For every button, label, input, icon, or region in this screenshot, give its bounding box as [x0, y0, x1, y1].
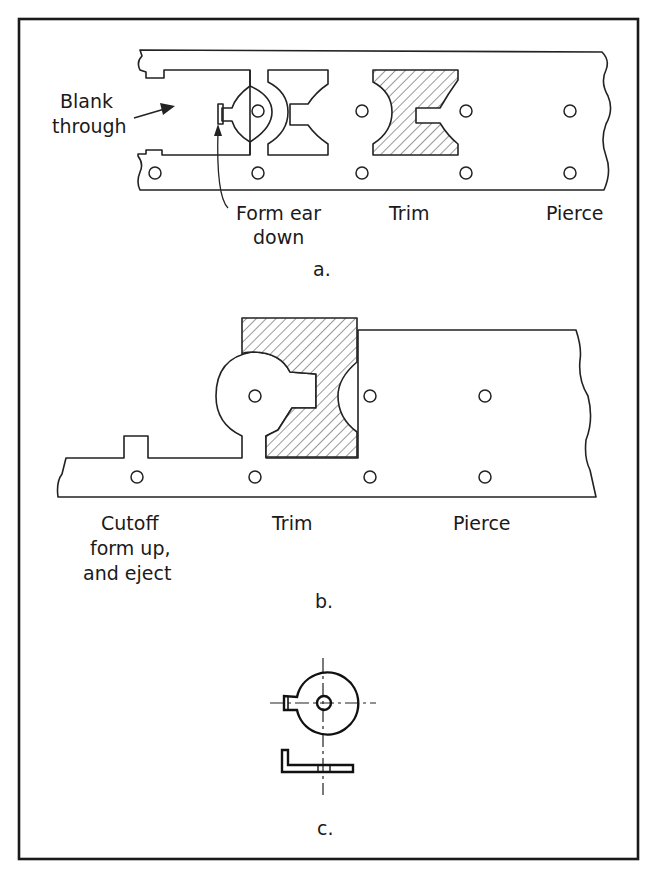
station-form-ear-cutout	[222, 70, 250, 155]
pilot-hole	[364, 390, 376, 402]
panel-b-strip-layout	[58, 318, 597, 497]
label-form-ear-2: down	[253, 226, 304, 248]
pilot-hole	[356, 105, 368, 117]
arrowhead-icon	[160, 103, 175, 115]
label-trim-a: Trim	[388, 202, 429, 224]
caption-c: c.	[317, 817, 334, 839]
figure-canvas: Blank through Form ear down Trim Pierce …	[0, 0, 658, 874]
pilot-hole	[356, 167, 368, 179]
label-pierce-b: Pierce	[453, 512, 511, 534]
label-trim-b: Trim	[271, 512, 312, 534]
pilot-hole	[460, 167, 472, 179]
panel-a-strip-layout	[134, 50, 611, 208]
pilot-hole	[364, 471, 376, 483]
pilot-hole	[564, 167, 576, 179]
pilot-hole	[460, 105, 472, 117]
pilot-hole	[249, 471, 261, 483]
formed-ear	[218, 104, 223, 124]
pilot-hole	[149, 167, 161, 179]
pilot-hole	[252, 105, 264, 117]
arrowhead-icon	[214, 124, 222, 136]
pilot-hole	[249, 390, 261, 402]
label-blank-through-1: Blank	[60, 90, 113, 112]
caption-a: a.	[313, 258, 331, 280]
label-form-ear-1: Form ear	[236, 202, 321, 224]
caption-b: b.	[315, 590, 333, 612]
label-cutoff-2: form up,	[90, 537, 170, 559]
pilot-hole	[252, 167, 264, 179]
label-cutoff-1: Cutoff	[101, 512, 159, 534]
pilot-hole	[564, 105, 576, 117]
label-blank-through-2: through	[52, 115, 127, 137]
pilot-hole	[131, 471, 143, 483]
label-pierce-a: Pierce	[546, 202, 604, 224]
pilot-hole	[479, 390, 491, 402]
pilot-hole	[479, 471, 491, 483]
panel-c-finished-part	[270, 658, 376, 795]
label-cutoff-3: and eject	[83, 562, 171, 584]
